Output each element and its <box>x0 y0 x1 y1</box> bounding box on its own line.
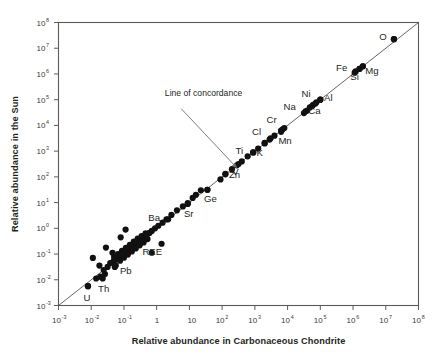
x-tick-exponent: 5 <box>324 314 327 320</box>
element-label-o: O <box>379 31 386 42</box>
x-tick-label: 10 <box>248 316 257 325</box>
y-tick-label: 10 <box>37 70 46 79</box>
data-point <box>85 283 91 289</box>
x-tick-label: 10 <box>379 316 388 325</box>
data-point <box>245 153 251 159</box>
data-point <box>122 227 128 233</box>
element-label-ba: Ba <box>148 212 160 223</box>
axis-titles-group: Relative abundance in Carbonaceous Chond… <box>10 96 345 346</box>
x-tick-exponent: 4 <box>291 314 294 320</box>
element-label-al: Al <box>324 92 333 103</box>
y-tick-exponent: 4 <box>46 119 49 125</box>
element-label-k: K <box>256 147 263 158</box>
element-label-si: Si <box>350 71 359 82</box>
x-tick-exponent: 2 <box>225 314 228 320</box>
data-point <box>100 275 106 281</box>
element-label-cl: Cl <box>252 126 261 137</box>
x-tick-label: 10 <box>314 316 323 325</box>
element-label-u: U <box>83 292 90 303</box>
x-tick-label: 10 <box>216 316 225 325</box>
data-point <box>185 201 191 207</box>
data-point <box>262 140 268 146</box>
x-tick-label: 10 <box>52 316 61 325</box>
y-tick-label: 10 <box>37 250 46 259</box>
data-point <box>317 97 323 103</box>
y-tick-label: 10 <box>37 44 46 53</box>
x-tick-label: 10 <box>187 316 196 325</box>
data-point <box>278 127 284 133</box>
data-point <box>217 176 223 182</box>
element-label-th: Th <box>98 283 109 294</box>
element-label-cr: Cr <box>267 114 278 125</box>
y-tick-exponent: 6 <box>46 68 49 74</box>
x-tick-exponent: -3 <box>62 314 67 320</box>
y-tick-label: 10 <box>37 19 46 28</box>
x-tick-exponent: 3 <box>258 314 261 320</box>
x-tick-label: 10 <box>85 316 94 325</box>
data-point <box>113 263 119 269</box>
y-tick-exponent: 1 <box>46 197 49 203</box>
data-point <box>250 149 256 155</box>
data-point <box>117 258 123 264</box>
annotations-group: Line of concordance <box>165 88 243 168</box>
data-point <box>118 234 124 240</box>
data-point <box>96 263 102 269</box>
x-tick-label: 10 <box>281 316 290 325</box>
x-tick-exponent: 8 <box>422 314 425 320</box>
element-label-ca: Ca <box>308 105 321 116</box>
x-tick-label: 1 <box>155 316 160 325</box>
element-label-v: V <box>232 166 239 177</box>
element-label-ree: REE <box>142 246 162 257</box>
element-labels-group: OFeSiMgNiNaAlCaCrMnClKTiZnVGeSrBaREEPbTh… <box>83 31 386 303</box>
data-point <box>266 136 272 142</box>
data-point <box>137 239 143 245</box>
y-tick-exponent: -3 <box>46 300 51 306</box>
y-tick-exponent: 5 <box>46 94 49 100</box>
y-tick-exponent: 8 <box>46 17 49 23</box>
element-label-fe: Fe <box>336 62 347 73</box>
y-tick-exponent: -1 <box>46 248 51 254</box>
element-label-pb: Pb <box>120 265 132 276</box>
data-point <box>190 195 196 201</box>
element-label-mn: Mn <box>278 135 291 146</box>
y-tick-exponent: -2 <box>46 274 51 280</box>
x-tick-label: 10 <box>347 316 356 325</box>
element-label-ni: Ni <box>302 88 311 99</box>
data-point <box>109 250 115 256</box>
element-label-ti: Ti <box>235 145 243 156</box>
data-point <box>103 245 109 251</box>
x-tick-exponent: 6 <box>356 314 359 320</box>
y-tick-label: 10 <box>37 302 46 311</box>
data-point <box>165 216 171 222</box>
y-tick-exponent: 7 <box>46 42 49 48</box>
data-point <box>90 255 96 261</box>
x-tick-label: 10 <box>117 316 126 325</box>
y-tick-label: 10 <box>37 147 46 156</box>
y-tick-exponent: 3 <box>46 145 49 151</box>
y-tick-exponent: 0 <box>46 222 49 228</box>
y-tick-label: 10 <box>37 224 46 233</box>
y-tick-label: 10 <box>37 276 46 285</box>
y-tick-label: 10 <box>37 173 46 182</box>
annotation-arrow <box>181 109 237 168</box>
x-axis-title: Relative abundance in Carbonaceous Chond… <box>132 336 346 346</box>
data-point <box>174 207 180 213</box>
y-tick-label: 10 <box>37 199 46 208</box>
y-tick-label: 10 <box>37 121 46 130</box>
data-point <box>93 275 99 281</box>
data-point <box>222 171 228 177</box>
element-label-na: Na <box>283 101 296 112</box>
plot-canvas: 10-310-210-11101021031041051061071081081… <box>0 0 440 360</box>
x-tick-label: 10 <box>412 316 421 325</box>
element-label-sr: Sr <box>184 208 194 219</box>
y-tick-label: 10 <box>37 96 46 105</box>
figure-scatter-abundance: 10-310-210-11101021031041051061071081081… <box>0 0 440 360</box>
data-point <box>391 36 397 42</box>
element-label-mg: Mg <box>365 65 378 76</box>
annotation-line-of-concordance: Line of concordance <box>165 88 243 98</box>
y-axis-title: Relative abundance in the Sun <box>10 96 20 232</box>
x-tick-exponent: -2 <box>94 314 99 320</box>
x-tick-exponent: 7 <box>389 314 392 320</box>
x-tick-exponent: -1 <box>127 314 132 320</box>
element-label-ge: Ge <box>204 193 217 204</box>
